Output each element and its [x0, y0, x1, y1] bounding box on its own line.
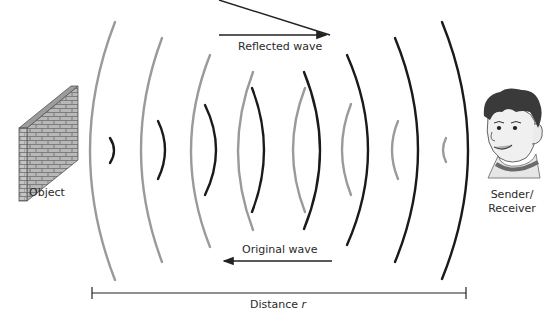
original-wave-arc-6	[342, 104, 351, 195]
reflected-wave-arc-4	[252, 88, 264, 212]
distance-variable: r	[302, 298, 307, 311]
original-wave-arc-5	[293, 88, 305, 212]
reflected-wave-arc-6	[347, 55, 368, 245]
original-wave-arc-2	[141, 38, 162, 262]
reflected-wave-arc-7	[395, 38, 418, 262]
brick-wall-icon	[19, 86, 78, 201]
reflected-wave-arc-8	[442, 22, 468, 279]
reflected-wave-arc-1	[110, 138, 114, 163]
sender-receiver-label: Sender/ Receiver	[482, 188, 542, 216]
wave-reflection-diagram: Reflected wave Original wave Object Send…	[0, 0, 545, 323]
distance-label: Distance r	[250, 298, 306, 311]
reflected-wave-arcs	[110, 22, 468, 279]
original-wave-arc-4	[238, 72, 253, 230]
original-wave-arc-1	[90, 22, 115, 280]
reflected-wave-label: Reflected wave	[238, 40, 322, 53]
original-wave-label: Original wave	[242, 243, 318, 256]
reflected-wave-arc-5	[304, 72, 320, 229]
reflected-wave-arc-2	[158, 121, 165, 179]
original-wave-arc-7	[392, 121, 398, 179]
reflected-wave-arc-3	[205, 105, 216, 195]
reflected-wave-arrow	[219, 0, 330, 35]
object-label: Object	[29, 186, 65, 199]
sender-label: Sender/	[482, 188, 542, 202]
person-icon	[484, 88, 543, 178]
distance-text: Distance	[250, 298, 302, 311]
original-wave-arc-3	[191, 55, 210, 247]
original-wave-arc-8	[443, 138, 446, 162]
original-wave-arcs	[90, 22, 446, 280]
receiver-label: Receiver	[482, 202, 542, 216]
